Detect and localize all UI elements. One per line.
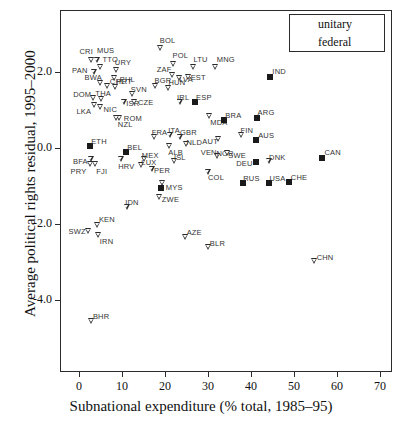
point-label-tha: THA xyxy=(95,89,111,98)
point-label-col: COL xyxy=(208,173,224,182)
point-label-irn: IRN xyxy=(100,237,114,246)
point-label-fin: FIN xyxy=(241,126,254,135)
point-label-esp: ESP xyxy=(196,93,212,102)
unitary-marker-icon xyxy=(131,99,137,105)
point-label-aut: AUT xyxy=(202,137,218,146)
point-label-bwa: BWA xyxy=(85,73,102,82)
point-label-bra: BRA xyxy=(225,111,241,120)
point-label-bhr: BHR xyxy=(93,312,109,321)
x-tick-mark xyxy=(294,372,295,377)
x-tick-mark xyxy=(165,372,166,377)
unitary-marker-icon xyxy=(157,45,163,51)
x-tick-label: 50 xyxy=(279,379,309,394)
point-label-nld: NLD xyxy=(187,138,203,147)
point-label-pry: PRY xyxy=(71,167,87,176)
legend-label-federal: federal xyxy=(318,33,351,51)
point-label-bol: BOL xyxy=(160,36,176,45)
point-label-deu: DEU xyxy=(236,159,252,168)
x-tick-label: 70 xyxy=(365,379,395,394)
point-label-mng: MNG xyxy=(217,55,235,64)
federal-marker-icon xyxy=(253,159,259,165)
point-label-zwe: ZWE xyxy=(162,195,179,204)
legend-entry-federal: federal xyxy=(290,33,384,51)
point-label-irl: IRL xyxy=(177,93,189,102)
x-tick-mark xyxy=(251,372,252,377)
point-label-swe: SWE xyxy=(228,151,246,160)
point-label-bfa: BFA xyxy=(73,157,88,166)
point-label-dnk: DNK xyxy=(269,153,285,162)
point-label-bel: BEL xyxy=(127,143,142,152)
y-tick-mark xyxy=(55,72,60,73)
point-label-pol: POL xyxy=(173,51,189,60)
point-label-mus: MUS xyxy=(97,46,114,55)
point-label-arg: ARG xyxy=(258,108,275,117)
x-tick-mark xyxy=(122,372,123,377)
point-label-nzl: NZL xyxy=(118,120,133,129)
point-label-fra: FRA xyxy=(152,128,168,137)
federal-marker-icon xyxy=(158,185,164,191)
point-label-prt: PRT xyxy=(117,77,132,86)
point-label-cze: CZE xyxy=(138,98,154,107)
point-label-isl: ISL xyxy=(174,153,186,162)
legend-label-unitary: unitary xyxy=(318,15,352,33)
unitary-marker-icon xyxy=(190,64,196,70)
point-label-blr: BLR xyxy=(210,239,225,248)
point-label-hrv: HRV xyxy=(118,162,134,171)
point-label-eth: ETH xyxy=(91,137,107,146)
x-tick-label: 0 xyxy=(64,379,94,394)
point-label-chn: CHN xyxy=(317,253,334,262)
point-label-rus: RUS xyxy=(243,174,259,183)
point-label-lka: LKA xyxy=(76,107,91,116)
legend: unitary federal xyxy=(289,14,385,52)
y-tick-mark xyxy=(55,300,60,301)
x-tick-label: 40 xyxy=(236,379,266,394)
point-label-dom: DOM xyxy=(73,90,91,99)
point-label-che: CHE xyxy=(291,173,307,182)
point-label-ken: KEN xyxy=(99,215,115,224)
point-label-est: EST xyxy=(191,73,206,82)
x-tick-mark xyxy=(79,372,80,377)
y-tick-mark xyxy=(55,148,60,149)
point-label-can: CAN xyxy=(324,148,340,157)
point-label-ltu: LTU xyxy=(193,55,207,64)
point-label-aze: AZE xyxy=(187,228,202,237)
point-label-mys: MYS xyxy=(166,183,183,192)
x-axis-title: Subnational expenditure (% total, 1985–9… xyxy=(0,398,402,415)
point-label-zaf: ZAF xyxy=(157,65,172,74)
point-label-nic: NIC xyxy=(104,105,118,114)
point-label-ven: VEN xyxy=(201,148,217,157)
legend-entry-unitary: unitary xyxy=(290,15,384,33)
unitary-marker-icon xyxy=(113,67,119,73)
unitary-marker-icon xyxy=(97,104,103,110)
unitary-marker-icon xyxy=(94,57,100,63)
unitary-marker-icon xyxy=(212,64,218,70)
unitary-marker-icon xyxy=(97,64,103,70)
x-tick-mark xyxy=(337,372,338,377)
unitary-marker-icon xyxy=(91,102,97,108)
y-tick-mark xyxy=(55,224,60,225)
x-tick-label: 30 xyxy=(193,379,223,394)
point-label-usa: USA xyxy=(269,174,285,183)
point-label-idn: IDN xyxy=(125,198,139,207)
x-tick-label: 10 xyxy=(107,379,137,394)
scatter-plot-figure: 010203040506070 2.00.0-2.0-4.0 CRIMUSTTO… xyxy=(0,0,402,441)
x-tick-mark xyxy=(380,372,381,377)
point-label-ury: URY xyxy=(115,58,131,67)
point-label-svn: SVN xyxy=(131,85,147,94)
x-tick-label: 60 xyxy=(322,379,352,394)
y-axis-title: Average political rights residual, 1995–… xyxy=(22,14,39,354)
point-label-gbr: GBR xyxy=(180,128,197,137)
point-label-per: PER xyxy=(154,166,170,175)
point-label-aus: AUS xyxy=(258,131,274,140)
point-label-fji: FJI xyxy=(96,167,107,176)
x-tick-label: 20 xyxy=(150,379,180,394)
point-label-cri: CRI xyxy=(79,47,93,56)
point-label-ind: IND xyxy=(272,67,286,76)
x-tick-mark xyxy=(208,372,209,377)
point-label-swz: SWZ xyxy=(68,227,85,236)
